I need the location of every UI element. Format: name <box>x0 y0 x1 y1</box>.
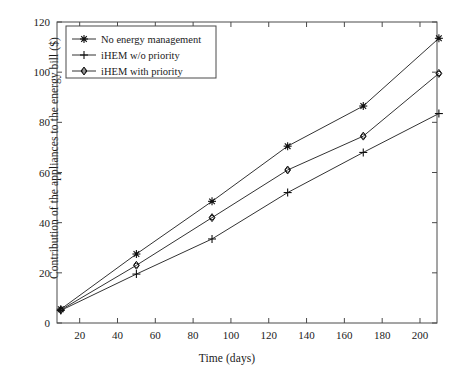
y-tick-label: 40 <box>39 217 51 229</box>
x-tick-label: 200 <box>412 329 429 341</box>
x-tick-label: 40 <box>112 329 124 341</box>
plot-area: 2040608010012014016018020002040608010012… <box>0 0 454 381</box>
y-tick-label: 120 <box>34 16 51 28</box>
x-tick-label: 80 <box>188 329 200 341</box>
x-axis-label: Time (days) <box>0 352 454 364</box>
x-tick-label: 100 <box>223 329 240 341</box>
x-tick-label: 180 <box>374 329 391 341</box>
x-tick-label: 120 <box>260 329 277 341</box>
x-tick-label: 160 <box>336 329 353 341</box>
y-tick-label: 80 <box>39 116 51 128</box>
y-tick-label: 0 <box>45 317 51 329</box>
chart-figure: Contribution of the appliances to the en… <box>0 0 454 381</box>
series-2 <box>58 69 442 314</box>
legend: No energy managementiHEM w/o priorityiHE… <box>66 26 216 78</box>
y-tick-label: 20 <box>39 267 51 279</box>
x-tick-label: 60 <box>150 329 162 341</box>
y-tick-label: 100 <box>34 66 51 78</box>
legend-label: iHEM with priority <box>101 66 183 77</box>
legend-label: No energy management <box>101 34 201 45</box>
x-tick-label: 140 <box>298 329 315 341</box>
series-1 <box>57 110 443 315</box>
legend-label: iHEM w/o priority <box>101 50 180 61</box>
x-tick-label: 20 <box>74 329 86 341</box>
y-tick-label: 60 <box>39 167 51 179</box>
